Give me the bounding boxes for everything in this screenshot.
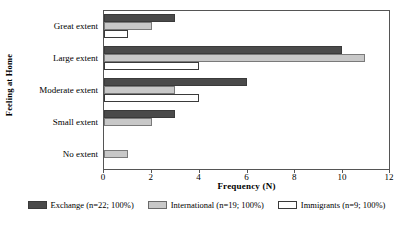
- bar-large-extent-immigrants[interactable]: [104, 62, 199, 70]
- y-axis-label-no-extent: No extent: [63, 138, 98, 170]
- bar-group-moderate-extent: [104, 75, 389, 107]
- bar-moderate-extent-exchange[interactable]: [104, 78, 247, 86]
- bar-no-extent-international[interactable]: [104, 150, 128, 158]
- bar-small-extent-exchange[interactable]: [104, 110, 175, 118]
- bar-great-extent-international[interactable]: [104, 22, 152, 30]
- bar-large-extent-exchange[interactable]: [104, 46, 342, 54]
- legend-label-exchange: Exchange (n=22; 100%): [51, 200, 134, 210]
- bar-chart-figure: Feeling at Home Great extent Large exten…: [0, 0, 413, 226]
- chart-legend: Exchange (n=22; 100%) International (n=1…: [0, 196, 413, 214]
- legend-item-immigrants[interactable]: Immigrants (n=9; 100%): [278, 200, 386, 210]
- bar-group-large-extent: [104, 43, 389, 75]
- legend-item-exchange[interactable]: Exchange (n=22; 100%): [28, 200, 134, 210]
- y-axis-label-small-extent: Small extent: [53, 106, 98, 138]
- legend-item-international[interactable]: International (n=19; 100%): [148, 200, 264, 210]
- bar-moderate-extent-immigrants[interactable]: [104, 94, 199, 102]
- bar-small-extent-international[interactable]: [104, 118, 152, 126]
- bar-group-no-extent: [104, 139, 389, 171]
- bar-great-extent-exchange[interactable]: [104, 14, 175, 22]
- plot-area: [103, 10, 390, 170]
- x-axis-title: Frequency (N): [103, 181, 390, 191]
- legend-swatch-international-icon: [148, 201, 167, 209]
- bar-group-small-extent: [104, 107, 389, 139]
- bar-great-extent-immigrants[interactable]: [104, 30, 128, 38]
- y-axis-label-great-extent: Great extent: [54, 10, 98, 42]
- y-axis-title-text: Feeling at Home: [4, 54, 14, 116]
- bar-moderate-extent-international[interactable]: [104, 86, 175, 94]
- y-axis-title: Feeling at Home: [0, 0, 18, 170]
- bar-large-extent-international[interactable]: [104, 54, 365, 62]
- y-axis-category-labels: Great extent Large extent Moderate exten…: [18, 10, 101, 170]
- legend-swatch-immigrants-icon: [278, 201, 297, 209]
- bar-group-great-extent: [104, 11, 389, 43]
- legend-label-international: International (n=19; 100%): [171, 200, 264, 210]
- legend-swatch-exchange-icon: [28, 201, 47, 209]
- y-axis-label-large-extent: Large extent: [53, 42, 98, 74]
- y-axis-label-moderate-extent: Moderate extent: [39, 74, 98, 106]
- legend-label-immigrants: Immigrants (n=9; 100%): [301, 200, 386, 210]
